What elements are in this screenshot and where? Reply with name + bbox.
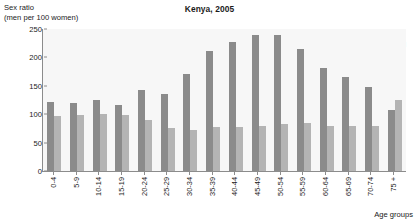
bar-urban[interactable] [252, 35, 259, 171]
bar-group [43, 29, 66, 171]
plot-area: 250200150100500 [42, 29, 406, 172]
bar-rural[interactable] [145, 120, 152, 171]
bar-urban[interactable] [115, 105, 122, 171]
x-axis-tick-mark [280, 172, 281, 175]
x-axis-tick-mark [393, 172, 394, 175]
y-axis-tick: 250 [29, 25, 43, 34]
x-axis-tick-mark [348, 172, 349, 175]
bar-group [383, 29, 406, 171]
x-axis-tick-mark [370, 172, 371, 175]
y-axis-tick-label: 250 [29, 25, 44, 34]
bar-rural[interactable] [122, 115, 129, 171]
bar-urban[interactable] [70, 103, 77, 171]
bar-urban[interactable] [320, 68, 327, 171]
x-axis-tick-label: 35-39 [208, 177, 217, 196]
x-axis-tick: 5-9 [65, 172, 88, 212]
bar-rural[interactable] [100, 114, 107, 171]
bar-rural[interactable] [304, 123, 311, 171]
x-axis-tick-label: 0-4 [49, 177, 58, 188]
x-axis-tick-mark [53, 172, 54, 175]
bar-group [361, 29, 384, 171]
bar-urban[interactable] [183, 74, 190, 171]
bar-urban[interactable] [388, 110, 395, 171]
x-axis-tick-label: 10-14 [94, 177, 103, 196]
x-axis-tick: 40-44 [224, 172, 247, 212]
bar-rural[interactable] [327, 126, 334, 171]
x-axis-tick-label: 75 + [389, 177, 398, 192]
x-axis-tick-mark [234, 172, 235, 175]
bar-rural[interactable] [372, 126, 379, 171]
y-axis-tick: 50 [34, 138, 43, 147]
y-axis-tick: 200 [29, 53, 43, 62]
bar-urban[interactable] [229, 42, 236, 172]
x-axis-tick-label: 55-59 [298, 177, 307, 196]
x-axis-tick: 70-74 [360, 172, 383, 212]
x-axis-tick: 20-24 [133, 172, 156, 212]
x-axis-tick-mark [144, 172, 145, 175]
bar-group [293, 29, 316, 171]
bar-rural[interactable] [168, 128, 175, 171]
bar-rural[interactable] [190, 130, 197, 171]
x-axis-tick-label: 65-69 [344, 177, 353, 196]
bar-rural[interactable] [54, 116, 61, 171]
x-axis-tick-mark [257, 172, 258, 175]
bar-group [179, 29, 202, 171]
x-axis-tick-mark [76, 172, 77, 175]
x-axis-tick: 50-54 [269, 172, 292, 212]
bar-rural[interactable] [395, 100, 402, 171]
y-axis-caption-line2: (men per 100 women) [4, 13, 78, 23]
x-axis-tick-label: 60-64 [321, 177, 330, 196]
x-axis-tick: 0-4 [42, 172, 65, 212]
x-axis-tick-label: 45-49 [253, 177, 262, 196]
bar-group [270, 29, 293, 171]
x-axis-tick-mark [121, 172, 122, 175]
x-axis-tick-mark [212, 172, 213, 175]
chart-figure: Sex ratio (men per 100 women) Kenya, 200… [0, 0, 419, 224]
bar-rural[interactable] [281, 124, 288, 171]
bar-rural[interactable] [349, 126, 356, 171]
bar-urban[interactable] [365, 87, 372, 171]
bar-urban[interactable] [297, 49, 304, 171]
chart-title: Kenya, 2005 [0, 4, 419, 14]
x-axis-tick: 30-34 [178, 172, 201, 212]
bar-rural[interactable] [259, 126, 266, 171]
y-axis-tick: 150 [29, 81, 43, 90]
bar-rural[interactable] [77, 115, 84, 171]
bar-urban[interactable] [274, 35, 281, 171]
bar-urban[interactable] [342, 77, 349, 171]
x-axis-tick-mark [189, 172, 190, 175]
x-axis-tick: 10-14 [87, 172, 110, 212]
x-axis-tick-label: 5-9 [72, 177, 81, 188]
bar-group [225, 29, 248, 171]
y-axis-tick-label: 200 [29, 53, 44, 62]
x-axis-tick: 60-64 [314, 172, 337, 212]
x-axis-tick-label: 15-19 [117, 177, 126, 196]
x-axis-tick: 75 + [382, 172, 405, 212]
bar-rural[interactable] [213, 127, 220, 171]
bar-group [66, 29, 89, 171]
bar-group [156, 29, 179, 171]
x-axis-tick-label: 50-54 [276, 177, 285, 196]
x-axis-tick-label: 30-34 [185, 177, 194, 196]
x-axis-tick: 55-59 [292, 172, 315, 212]
y-axis-tick-label: 150 [29, 81, 44, 90]
x-axis-tick-mark [166, 172, 167, 175]
bar-urban[interactable] [138, 90, 145, 171]
x-axis-tick-label: 20-24 [140, 177, 149, 196]
y-axis-tick: 100 [29, 110, 43, 119]
x-axis-tick: 25-29 [155, 172, 178, 212]
bar-group [88, 29, 111, 171]
x-axis-tick: 45-49 [246, 172, 269, 212]
bar-rural[interactable] [236, 127, 243, 171]
bar-urban[interactable] [47, 102, 54, 171]
bar-urban[interactable] [161, 94, 168, 171]
x-axis-tick-label: 25-29 [162, 177, 171, 196]
bar-group [338, 29, 361, 171]
bar-urban[interactable] [206, 51, 213, 171]
bar-urban[interactable] [93, 100, 100, 171]
x-axis-tick-mark [98, 172, 99, 175]
x-axis-title: Age groups [374, 210, 413, 219]
x-axis-ticks: 0-45-910-1415-1920-2425-2930-3435-3940-4… [42, 172, 405, 212]
bar-groups [43, 29, 406, 171]
x-axis-tick: 35-39 [201, 172, 224, 212]
